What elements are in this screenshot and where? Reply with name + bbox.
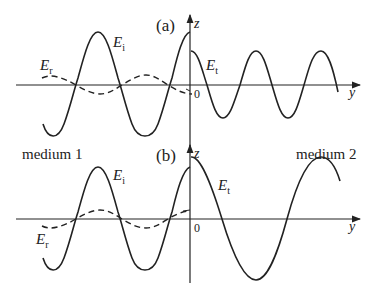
reflected-label-b: Er	[35, 231, 49, 250]
panel-label-a: (a)	[156, 16, 175, 35]
y-axis-label-b: y	[347, 219, 356, 234]
origin-label-b: 0	[194, 221, 200, 235]
panel-b: (b) z y 0 Ei Er Et	[16, 145, 360, 283]
incident-label-a: Ei	[112, 34, 125, 53]
origin-tick-b	[183, 210, 190, 211]
z-axis-label-b: z	[193, 146, 200, 161]
transmitted-label-b: Et	[217, 177, 230, 196]
medium-1-label: medium 1	[22, 146, 82, 162]
medium-2-label: medium 2	[296, 146, 356, 162]
z-axis-label-a: z	[193, 16, 200, 31]
y-axis-label-a: y	[347, 85, 356, 100]
reflected-label-a: Er	[39, 57, 53, 76]
panel-a: (a) z y 0 Ei Er Et	[16, 15, 360, 148]
transmitted-label-a: Et	[205, 57, 218, 76]
origin-label-a: 0	[194, 87, 200, 101]
incident-label-b: Ei	[112, 167, 125, 186]
panel-label-b: (b)	[156, 146, 176, 165]
wave-reflection-diagram: (a) z y 0 Ei Er Et medium 1 medium 2 (b)…	[0, 0, 377, 296]
